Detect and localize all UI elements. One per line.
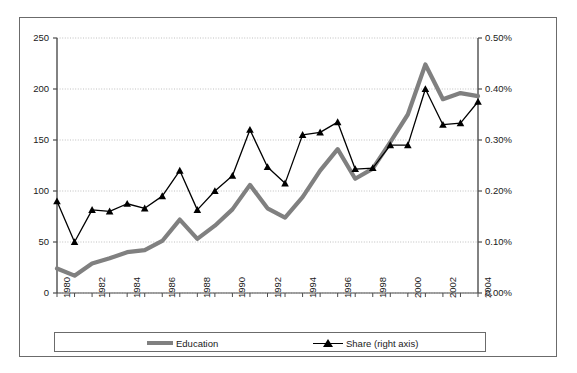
legend-label-education: Education: [176, 338, 218, 349]
x-axis-tick-label: 1990: [236, 277, 247, 298]
y-axis-left-tick-label: 150: [19, 135, 49, 145]
x-axis-tick-label: 1988: [201, 277, 212, 298]
x-axis-tick-label: 1992: [272, 277, 283, 298]
y-axis-left-tick-label: 100: [19, 186, 49, 196]
y-axis-right-tick-label: 0.50%: [485, 33, 525, 43]
share-marker-swatch-icon: [313, 338, 343, 348]
series-line-share: [53, 85, 482, 245]
x-axis-tick-label: 2000: [412, 277, 423, 298]
y-axis-right-tick-label: 0.20%: [485, 186, 525, 196]
x-axis-tick-label: 1984: [131, 277, 142, 298]
series-line-education: [57, 65, 478, 276]
y-axis-left-tick-label: 250: [19, 33, 49, 43]
x-axis-tick-label: 1986: [166, 277, 177, 298]
y-axis-left-tick-label: 200: [19, 84, 49, 94]
x-axis-tick-label: 2002: [447, 277, 458, 298]
x-axis-tick-label: 1996: [342, 277, 353, 298]
x-axis-tick-label: 2004: [482, 277, 493, 298]
y-axis-right-tick-label: 0.10%: [485, 237, 525, 247]
x-axis-tick-label: 1982: [96, 277, 107, 298]
y-axis-left-tick-label: 50: [19, 237, 49, 247]
chart-legend: Education Share (right axis): [54, 332, 486, 352]
x-axis-tick-label: 1980: [61, 277, 72, 298]
x-axis-tick-label: 1994: [307, 277, 318, 298]
y-axis-right-tick-label: 0.30%: [485, 135, 525, 145]
education-line-swatch-icon: [147, 341, 173, 345]
x-axis-tick-label: 1998: [377, 277, 388, 298]
legend-item-education: Education: [147, 336, 218, 350]
y-axis-right-tick-label: 0.40%: [485, 84, 525, 94]
legend-label-share: Share (right axis): [346, 338, 418, 349]
legend-item-share: Share (right axis): [313, 336, 418, 350]
y-axis-left-tick-label: 0: [19, 288, 49, 298]
